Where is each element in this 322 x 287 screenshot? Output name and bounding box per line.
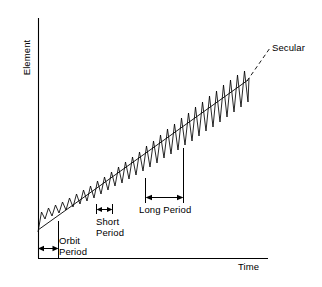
short-period-line-1: Short: [96, 216, 119, 227]
short-period-arrow: [97, 204, 113, 214]
orbit-period-line-2: Period: [59, 246, 87, 257]
period-diagram-figure: Element Time Secular OrbitPeriod ShortPe…: [0, 0, 322, 287]
x-axis-label: Time: [238, 261, 259, 272]
orbit-period-line-1: Orbit: [59, 235, 80, 246]
orbit-period-arrow: [38, 246, 59, 251]
long-period-annotation-label: Long Period: [139, 204, 191, 215]
y-axis-label: Element: [21, 28, 32, 88]
secular-leader-dashed-line: [247, 48, 270, 81]
orbit-period-annotation-label: OrbitPeriod: [59, 235, 87, 257]
short-period-annotation-label: ShortPeriod: [96, 216, 124, 238]
secular-annotation-label: Secular: [272, 42, 305, 53]
short-period-line-2: Period: [96, 227, 124, 238]
